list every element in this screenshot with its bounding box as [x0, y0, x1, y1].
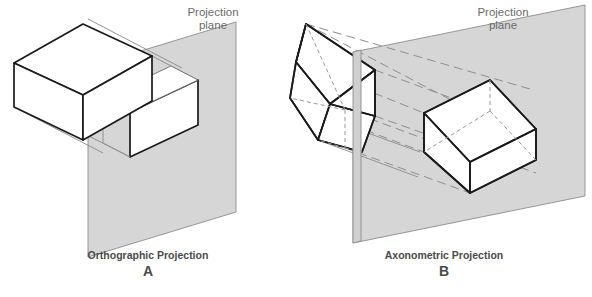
caption-title-a: Orthographic Projection [0, 249, 296, 261]
object-box-b [290, 24, 375, 152]
caption-letter-b: B [296, 263, 592, 279]
panel-b-axonometric [290, 5, 585, 243]
projection-plane-front-edge-b [353, 50, 361, 243]
plane-label-line2: plane [489, 19, 517, 31]
figure-root: Projection plane Projection plane Orthog… [0, 0, 592, 297]
caption-letter-a: A [0, 263, 296, 279]
plane-label-line1: Projection [477, 6, 528, 18]
caption-title-b: Axonometric Projection [296, 249, 592, 261]
plane-label-line2: plane [199, 19, 227, 31]
panel-a-orthographic [14, 19, 236, 257]
plane-label-line1: Projection [187, 6, 238, 18]
